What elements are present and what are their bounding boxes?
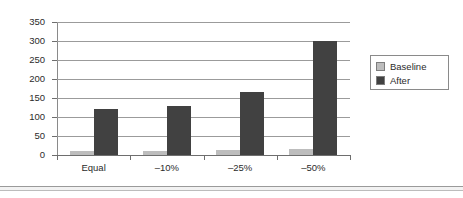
legend-label-baseline: Baseline (390, 62, 426, 72)
y-tick-label: 0 (13, 150, 45, 160)
y-tick-label: 200 (13, 74, 45, 84)
gridline (57, 79, 350, 80)
x-tick-mark (204, 155, 205, 160)
bar-chart-figure: 050100150200250300350 Equal–10%–25%–50% … (0, 0, 463, 198)
bar-after (94, 109, 118, 155)
bar-after (313, 41, 337, 155)
gridline (57, 22, 350, 23)
y-tick-label: 150 (13, 93, 45, 103)
legend-swatch-baseline (376, 62, 385, 71)
bar-baseline (216, 150, 240, 155)
y-tick-label: 100 (13, 112, 45, 122)
legend-item-baseline: Baseline (376, 60, 448, 73)
y-tick-label: 350 (13, 17, 45, 27)
x-tick-mark (277, 155, 278, 160)
bar-baseline (289, 149, 313, 155)
bar-baseline (70, 151, 94, 155)
y-tick-label: 300 (13, 36, 45, 46)
y-tick-label: 50 (13, 131, 45, 141)
legend-item-after: After (376, 74, 448, 87)
x-tick-mark (350, 155, 351, 160)
bottom-divider-rule (0, 186, 463, 191)
gridline (57, 41, 350, 42)
bar-after (240, 92, 264, 155)
chart-legend: Baseline After (370, 55, 449, 90)
y-tick-label: 250 (13, 55, 45, 65)
x-tick-label: –25% (228, 163, 252, 173)
gridline (57, 60, 350, 61)
x-tick-mark (57, 155, 58, 160)
x-tick-label: Equal (81, 163, 105, 173)
legend-label-after: After (390, 76, 410, 86)
x-tick-label: –10% (155, 163, 179, 173)
bar-after (167, 106, 191, 155)
x-tick-label: –50% (301, 163, 325, 173)
gridline (57, 98, 350, 99)
legend-swatch-after (376, 76, 385, 85)
x-tick-mark (130, 155, 131, 160)
bar-baseline (143, 151, 167, 155)
